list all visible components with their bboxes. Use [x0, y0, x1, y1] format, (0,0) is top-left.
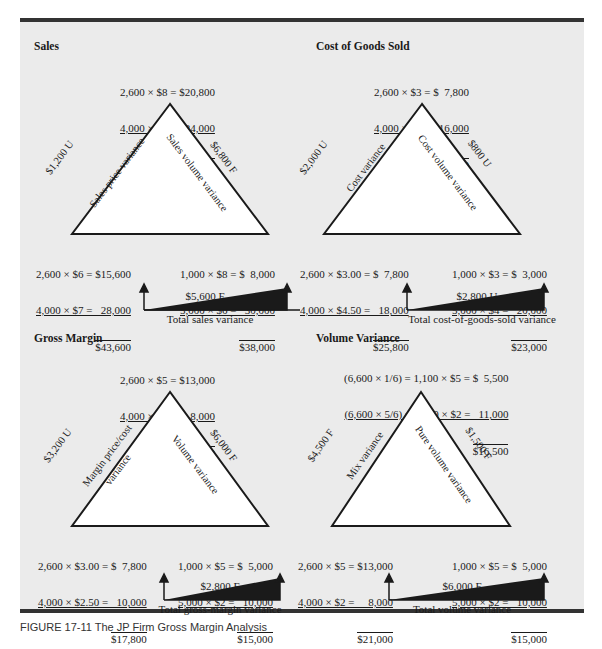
- calc-line: 4,000 × $2.50 = 10,000: [38, 596, 147, 608]
- variance-triangle: [70, 102, 270, 237]
- calc-total: $21,000: [298, 632, 393, 645]
- calc-line: 2,600 × $6 = $15,600: [36, 268, 131, 280]
- calc-line: 2,600 × $3.00 = $ 7,800: [300, 268, 409, 280]
- total-variance-value: $2,800 U: [407, 290, 547, 302]
- panel-volume-variance: Volume Variance (6,600 × 1/6) = 1,100 × …: [302, 314, 584, 604]
- total-variance-value: $2,800 F: [160, 580, 280, 592]
- figure-caption: FIGURE 17-11 The JP Firm Gross Margin An…: [20, 621, 267, 633]
- total-variance-value: $5,600 F: [140, 290, 270, 302]
- total-variance-label: Total gross-margin variance: [135, 603, 305, 615]
- panel-title: Gross Margin: [34, 332, 102, 344]
- calc-line: 1,000 × $8 = $ 8,000: [180, 268, 275, 280]
- calc-line: 1,000 × $5 = $ 5,000: [452, 560, 547, 572]
- calc-total: $15,000: [178, 632, 273, 645]
- calc-line: 2,600 × $5 = $13,000: [298, 560, 393, 572]
- panel-title: Cost of Goods Sold: [316, 40, 410, 52]
- calc-total: $15,000: [452, 632, 547, 645]
- left-amount: $3,200 U: [41, 427, 73, 465]
- calc-line: 2,600 × $5 = $13,000: [120, 374, 215, 386]
- panel-sales: Sales 2,600 × $8 = $20,800 4,000 × $6 = …: [20, 22, 302, 312]
- calc-line: 1,000 × $5 = $ 5,000: [178, 560, 273, 572]
- panel-gross-margin: Gross Margin 2,600 × $5 = $13,000 4,000 …: [20, 314, 302, 604]
- variance-triangle: [322, 102, 522, 237]
- calc-line: 2,600 × $3 = $ 7,800: [374, 86, 469, 98]
- calc-line: 2,600 × $8 = $20,800: [120, 86, 215, 98]
- figure-frame: Sales 2,600 × $8 = $20,800 4,000 × $6 = …: [20, 18, 584, 613]
- calc-total: $17,800: [38, 632, 147, 645]
- calc-line: 2,600 × $3.00 = $ 7,800: [38, 560, 147, 572]
- panel-cost-of-goods-sold: Cost of Goods Sold 2,600 × $3 = $ 7,800 …: [302, 22, 584, 312]
- calc-line: 1,000 × $3 = $ 3,000: [452, 268, 547, 280]
- panel-title: Sales: [34, 40, 59, 52]
- calc-line: (6,600 × 1/6) = 1,100 × $5 = $ 5,500: [344, 372, 508, 384]
- panel-title: Volume Variance: [316, 332, 400, 344]
- total-variance-label: Total volume variance: [382, 603, 542, 615]
- total-variance-value: $6,000 F: [402, 580, 522, 592]
